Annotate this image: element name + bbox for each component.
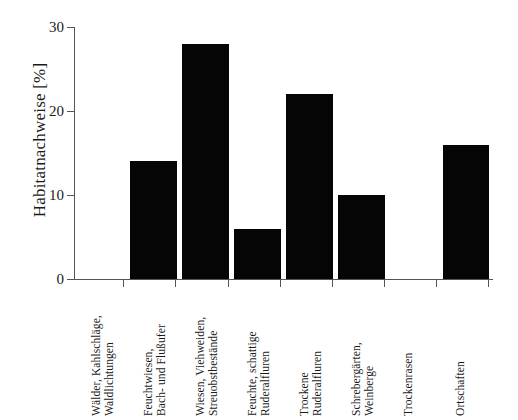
category-label-line: Feuchtwiesen,	[142, 292, 155, 416]
x-axis-category-label: Feuchte, schattigeRuderalfluren	[246, 292, 262, 416]
category-label-line: Wälder, Kahlschläge,	[90, 292, 103, 416]
x-axis-category-label: Wiesen, Viehweiden,Streuobstbestände	[194, 292, 210, 416]
x-axis-category-label: Schrebergärten,Weinberge	[350, 292, 366, 416]
y-axis-tick-label: 0	[8, 272, 64, 287]
x-axis-category-label: Ortschaften	[454, 292, 470, 416]
x-axis-tick	[332, 279, 333, 287]
x-axis-tick	[228, 279, 229, 287]
x-axis-category-label: Wälder, Kahlschläge,Waldlichtungen	[90, 292, 106, 416]
bar	[234, 229, 280, 279]
x-axis-tick	[280, 279, 281, 287]
x-axis-category-label: TrockeneRuderalfluren	[298, 292, 314, 416]
category-label-line: Weinberge	[362, 292, 375, 416]
y-axis-tick-label: 20	[8, 104, 64, 119]
category-label-line: Waldlichtungen	[102, 292, 115, 416]
y-axis-tick-label: 10	[8, 188, 64, 203]
bar	[338, 195, 384, 279]
category-label-line: Trockenrasen	[402, 292, 415, 416]
x-axis-tick	[488, 279, 489, 287]
category-label-line: Streuobstbestände	[206, 292, 219, 416]
bar	[182, 44, 228, 279]
bar-chart: Habitatnachweise [%] 0102030 Wälder, Kah…	[0, 0, 518, 420]
y-axis-tick-label: 30	[8, 20, 64, 35]
bar	[130, 161, 176, 279]
category-label-line: Trockene	[298, 292, 311, 416]
category-label-line: Feuchte, schattige	[246, 292, 259, 416]
category-label-line: Ruderalfluren	[310, 292, 323, 416]
bar	[286, 94, 332, 279]
x-axis-category-label: Trockenrasen	[402, 292, 418, 416]
x-axis-line	[74, 279, 493, 280]
x-axis-category-label: Feuchtwiesen,Bach- und Flußufer	[142, 292, 158, 416]
y-axis-title: Habitatnachweise [%]	[22, 0, 58, 280]
category-label-line: Bach- und Flußufer	[154, 292, 167, 416]
category-label-line: Ortschaften	[454, 292, 467, 416]
category-label-line: Schrebergärten,	[350, 292, 363, 416]
bar	[443, 145, 489, 279]
x-axis-tick	[384, 279, 385, 287]
x-axis-tick	[123, 279, 124, 287]
category-label-line: Wiesen, Viehweiden,	[194, 292, 207, 416]
x-axis-tick	[436, 279, 437, 287]
x-axis-tick	[175, 279, 176, 287]
category-label-line: Ruderalfluren	[258, 292, 271, 416]
plot-area	[74, 27, 493, 279]
